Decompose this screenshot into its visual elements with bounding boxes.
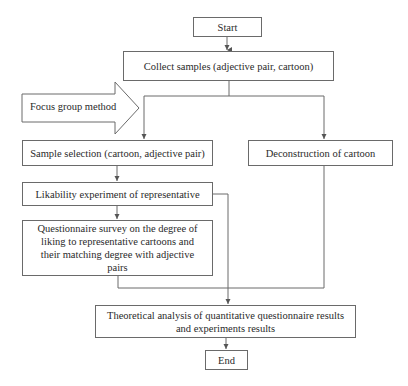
focus-group-method-label: Focus group method	[30, 101, 116, 112]
likability-experiment-node: Likability experiment of representative	[22, 182, 213, 206]
deconstruction-node: Deconstruction of cartoon	[248, 140, 393, 166]
questionnaire-survey-node: Questionnaire survey on the degree of li…	[22, 220, 213, 276]
sample-selection-node: Sample selection (cartoon, adjective pai…	[22, 140, 213, 166]
start-node: Start	[193, 17, 262, 37]
theoretical-analysis-node: Theoretical analysis of quantitative que…	[95, 305, 356, 338]
collect-samples-node: Collect samples (adjective pair, cartoon…	[123, 51, 334, 81]
end-node: End	[205, 350, 248, 370]
